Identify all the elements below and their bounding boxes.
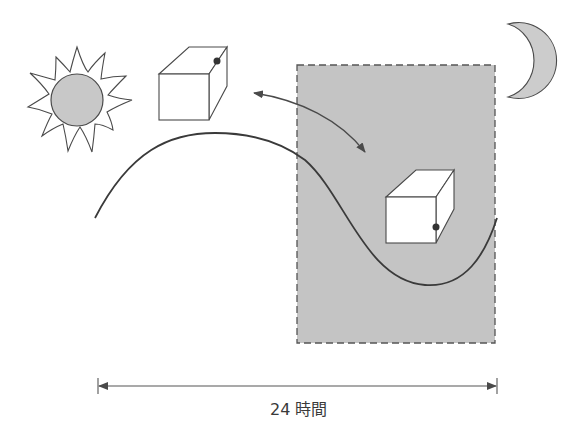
marker-dot [433, 224, 440, 231]
timeline-arrow [98, 378, 497, 394]
sun-icon [28, 47, 132, 152]
marker-dot [214, 58, 221, 65]
diagram-canvas [0, 0, 571, 441]
moon-icon [508, 23, 557, 99]
cube-day [159, 47, 227, 120]
duration-label: 24 時間 [270, 396, 327, 420]
